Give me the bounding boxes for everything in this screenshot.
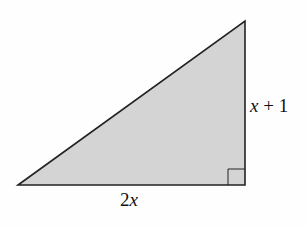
base-variable: x [130, 189, 138, 210]
base-coefficient: 2 [120, 189, 130, 210]
base-label: 2x [120, 189, 138, 211]
right-triangle [18, 21, 245, 185]
height-label: x + 1 [250, 95, 288, 117]
height-constant: + 1 [258, 95, 288, 116]
diagram-canvas: x + 1 2x [0, 0, 307, 226]
